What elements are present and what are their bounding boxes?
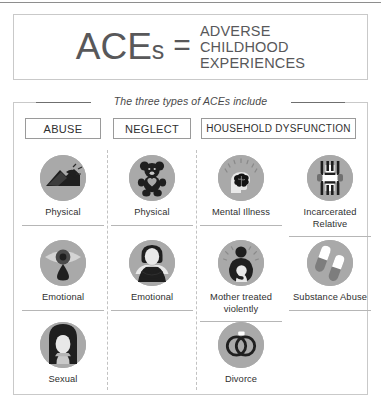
item-household-mental-illness-label: Mental Illness <box>212 207 270 219</box>
cell-divider <box>22 310 104 311</box>
item-household-incarcerated-relative-label: Incarcerated Relative <box>287 207 373 230</box>
item-abuse-physical: Physical <box>20 155 106 226</box>
item-household-mother-treated-violently: Mother treated violently <box>198 240 284 322</box>
column-header-abuse: ABUSE <box>25 118 101 139</box>
expansion-line-1: ADVERSE <box>200 23 305 39</box>
item-neglect-emotional-label: Emotional <box>131 292 173 304</box>
item-household-divorce: Divorce <box>198 322 284 393</box>
expansion-line-2: CHILDHOOD <box>200 39 305 55</box>
column-divider-abuse-neglect <box>107 150 108 390</box>
head-brain-icon <box>218 155 264 201</box>
aces-acronym-suffix: s <box>152 36 165 64</box>
mother-child-icon <box>218 240 264 286</box>
column-header-neglect-label: NEGLECT <box>125 123 179 135</box>
item-abuse-physical-label: Physical <box>45 207 80 219</box>
item-household-substance-abuse-label: Substance Abuse <box>293 292 367 304</box>
column-header-abuse-label: ABUSE <box>44 123 83 135</box>
column-divider-neglect-household <box>196 150 197 390</box>
item-abuse-sexual-label: Sexual <box>48 374 77 386</box>
item-household-divorce-label: Divorce <box>225 374 257 386</box>
teddy-bear-icon <box>129 155 175 201</box>
column-header-household-dysfunction: HOUSEHOLD DYSFUNCTION <box>201 118 356 139</box>
expansion-line-3: EXPERIENCES <box>200 55 305 71</box>
distressed-person-icon <box>40 322 86 368</box>
aces-acronym-main: ACE <box>76 26 152 67</box>
aces-acronym: ACEs <box>76 28 165 65</box>
crying-eye-icon <box>40 240 86 286</box>
equals-sign: = <box>173 30 191 63</box>
item-household-mother-treated-violently-label: Mother treated violently <box>198 292 284 315</box>
item-neglect-emotional: Emotional <box>109 240 195 311</box>
cell-divider <box>111 310 193 311</box>
item-abuse-emotional: Emotional <box>20 240 106 311</box>
item-abuse-emotional-label: Emotional <box>42 292 84 304</box>
aces-expansion: ADVERSE CHILDHOOD EXPERIENCES <box>200 23 305 72</box>
item-household-substance-abuse: Substance Abuse <box>287 240 373 311</box>
title-content: ACEs = ADVERSE CHILDHOOD EXPERIENCES <box>76 23 305 72</box>
arms-crossed-person-icon <box>129 240 175 286</box>
item-household-mental-illness: Mental Illness <box>198 155 284 226</box>
cell-divider <box>111 225 193 226</box>
column-header-household-label: HOUSEHOLD DYSFUNCTION <box>206 123 351 134</box>
title-box: ACEs = ADVERSE CHILDHOOD EXPERIENCES <box>13 14 368 80</box>
prison-bars-icon <box>307 155 353 201</box>
top-divider-rule <box>0 2 381 3</box>
item-household-incarcerated-relative: Incarcerated Relative <box>287 155 373 237</box>
item-abuse-sexual: Sexual <box>20 322 106 393</box>
fist-icon <box>40 155 86 201</box>
cell-divider <box>289 236 371 237</box>
broken-rings-icon <box>218 322 264 368</box>
cell-divider <box>289 310 371 311</box>
column-header-neglect: NEGLECT <box>113 118 191 139</box>
pills-icon <box>307 240 353 286</box>
panel-caption: The three types of ACEs include <box>0 95 381 107</box>
item-neglect-physical-label: Physical <box>134 207 169 219</box>
cell-divider <box>22 225 104 226</box>
item-neglect-physical: Physical <box>109 155 195 226</box>
cell-divider <box>200 225 282 226</box>
